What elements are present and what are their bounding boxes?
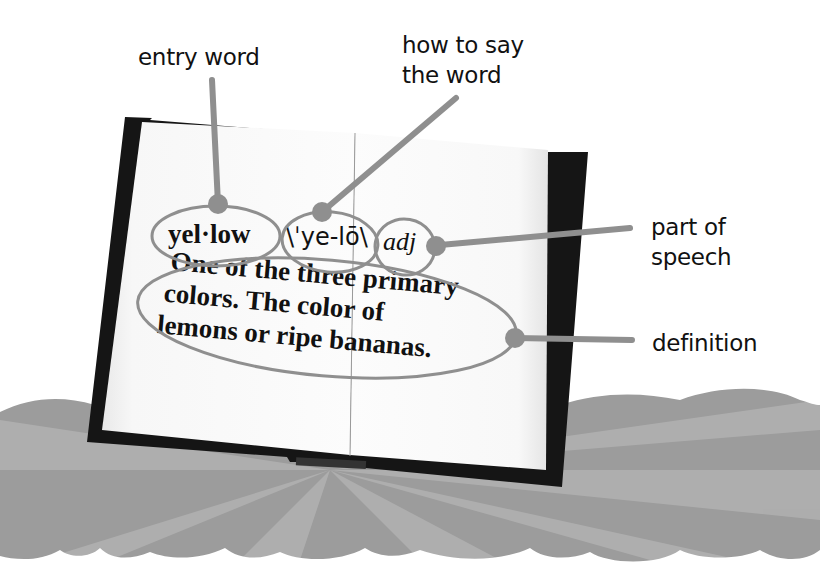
part-of-speech: adj (383, 227, 416, 256)
pronunciation-dot (312, 202, 332, 222)
definition-dot (505, 328, 525, 348)
label-part-of-speech: part of speech (651, 212, 731, 272)
label-part-of-speech-line-1: part of (651, 212, 731, 242)
dictionary-entry-diagram: yel·low \ˈye-lō\ adj One of the three pr… (0, 0, 820, 580)
label-pronunciation: how to say the word (402, 30, 524, 90)
label-pronunciation-line-2: the word (402, 60, 524, 90)
label-entry-word-line-1: entry word (138, 42, 260, 72)
pronunciation: \ˈye-lō\ (286, 223, 369, 251)
part-of-speech-dot (426, 236, 446, 256)
entry-word-dot (208, 194, 228, 214)
label-definition-line-1: definition (652, 328, 757, 358)
label-pronunciation-line-1: how to say (402, 30, 524, 60)
label-definition: definition (652, 328, 757, 358)
label-entry-word: entry word (138, 42, 260, 72)
headword: yel·low (168, 219, 251, 249)
definition-leader (515, 338, 632, 340)
label-part-of-speech-line-2: speech (651, 242, 731, 272)
